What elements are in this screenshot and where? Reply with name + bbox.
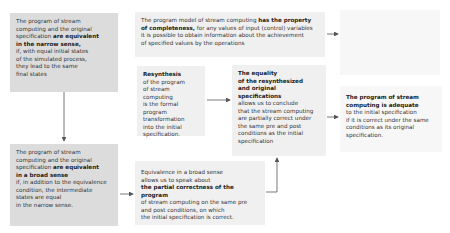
- text-line: final states: [16, 71, 112, 79]
- text-line: of stream computing: [143, 86, 199, 101]
- text-line: and post conditions, on which: [141, 207, 259, 215]
- text-line: into the initial: [143, 124, 199, 132]
- text-line: if, in addition to the equivalence: [16, 179, 112, 187]
- text-line: the same pre and post: [238, 123, 320, 131]
- text-line: specification: [16, 164, 51, 170]
- text-line: specification: [238, 138, 320, 146]
- text-line: allows us to speak about: [141, 177, 259, 185]
- text-line: in the narrow sense.: [16, 202, 112, 210]
- bold-text: and original specifications: [238, 85, 320, 100]
- bold-text: the partial correctness of the program: [141, 184, 259, 199]
- bold-text: Resynthesis: [143, 71, 199, 79]
- box-completeness: The program model of stream computing ha…: [135, 12, 325, 57]
- bold-text: The equality: [238, 70, 320, 78]
- text-line: computing and the original: [16, 157, 112, 165]
- box-empty-faint: [340, 10, 440, 75]
- bold-text: are equivalent: [53, 164, 99, 170]
- text-line: is the formal program: [143, 101, 199, 116]
- text-line: the initial specification is correct.: [141, 214, 259, 222]
- text-line: they lead to the same: [16, 63, 112, 71]
- arrow-partial-to-equality: [266, 158, 277, 192]
- text-line: of the simulated process,: [16, 56, 112, 64]
- text-line: that the stream computing: [238, 108, 320, 116]
- bold-text: in the narrow sense,: [16, 41, 112, 49]
- bold-text: of completeness,: [141, 25, 195, 31]
- text-line: specification: [16, 33, 51, 39]
- bold-text: of the resynthesized: [238, 78, 320, 86]
- bold-text: computing is adequate: [346, 102, 436, 110]
- box-resynthesis: Resynthesis of the program of stream com…: [137, 66, 205, 136]
- bold-text: are equivalent: [53, 33, 99, 39]
- box-adequate: The program of stream computing is adequ…: [340, 86, 442, 152]
- box-equality: The equality of the resynthesized and or…: [232, 65, 326, 156]
- box-partial-correctness: Equivalence in a broad sense allows us t…: [135, 161, 265, 225]
- text-line: of specified values by the operations: [141, 40, 319, 48]
- bold-text: has the property: [258, 17, 311, 23]
- box-broad-equivalence: The program of stream computing and the …: [10, 144, 118, 226]
- text-line: it is possible to obtain information abo…: [141, 32, 319, 40]
- text-line: of stream computing on the same pre: [141, 199, 259, 207]
- text-line: if it is correct under the same: [346, 117, 436, 125]
- text-line: states are equal: [16, 194, 112, 202]
- text-line: conditions as its original: [346, 124, 436, 132]
- text-line: transformation: [143, 116, 199, 124]
- text-line: Equivalence in a broad sense: [141, 169, 259, 177]
- text-line: to the initial specification: [346, 109, 436, 117]
- text-line: conditions as the initial: [238, 130, 320, 138]
- text-line: The program of stream: [16, 18, 112, 26]
- text-line: The program of stream: [16, 149, 112, 157]
- text-line: for any values of input (control) variab…: [195, 25, 313, 31]
- text-line: condition, the intermediate: [16, 187, 112, 195]
- text-line: specification.: [346, 132, 436, 140]
- bold-text: The program of stream: [346, 94, 436, 102]
- text-line: are partially correct under: [238, 115, 320, 123]
- text-line: The program model of stream computing: [141, 17, 258, 23]
- text-line: if, with equal initial states: [16, 48, 112, 56]
- bold-text: in a broad sense: [16, 172, 112, 180]
- text-line: computing and the original: [16, 26, 112, 34]
- text-line: specification.: [143, 131, 199, 139]
- text-line: allows us to conclude: [238, 100, 320, 108]
- text-line: of the program: [143, 79, 199, 87]
- box-narrow-equivalence: The program of stream computing and the …: [10, 13, 118, 92]
